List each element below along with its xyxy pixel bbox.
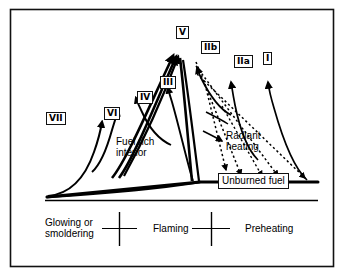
zone-label-v[interactable]: V xyxy=(176,26,189,39)
stage-label-glowing-smoldering: Glowing or smoldering xyxy=(45,217,94,239)
curve-vii xyxy=(48,122,102,196)
figure-root: VII VI IV III V IIb IIa I Fuel rich inte… xyxy=(0,0,344,275)
zone-label-iv[interactable]: IV xyxy=(137,91,153,104)
zone-label-iii[interactable]: III xyxy=(160,76,176,89)
annotation-fuel-rich-interior: Fuel rich interior xyxy=(116,136,154,158)
zone-label-iia[interactable]: IIa xyxy=(234,55,253,68)
zone-label-i[interactable]: I xyxy=(263,52,272,65)
radiant-arrow-2 xyxy=(196,66,278,176)
stage-label-flaming: Flaming xyxy=(153,223,189,234)
annotation-unburned-fuel: Unburned fuel xyxy=(218,173,289,189)
annotation-radiant-heating: Radiant heating xyxy=(226,130,260,152)
plume-left-outer xyxy=(112,56,173,178)
zone-label-iib[interactable]: IIb xyxy=(201,41,220,54)
stage-label-preheating: Preheating xyxy=(245,223,293,234)
curve-i xyxy=(268,82,307,180)
zone-label-vi[interactable]: VI xyxy=(104,107,120,120)
radiant-arrow-4 xyxy=(205,84,226,170)
radiant-stroke-a xyxy=(206,112,228,124)
radiant-stroke-b xyxy=(203,131,222,141)
zone-label-vii[interactable]: VII xyxy=(46,112,66,125)
